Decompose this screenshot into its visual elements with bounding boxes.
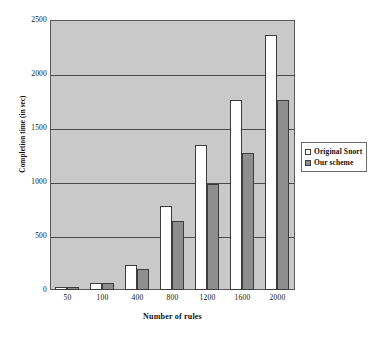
- bar: [207, 184, 219, 290]
- chart-legend: Original SnortOur scheme: [301, 142, 367, 172]
- y-axis-tick-label: 0: [43, 286, 47, 294]
- bar: [265, 35, 277, 290]
- y-axis-tick-label: 500: [35, 232, 47, 240]
- legend-item: Our scheme: [305, 157, 362, 168]
- legend-item-label: Our scheme: [314, 158, 353, 167]
- bars-layer: [50, 20, 295, 290]
- bar-group: [225, 20, 260, 290]
- bar: [90, 283, 102, 290]
- y-axis-tick-label: 1500: [31, 124, 47, 132]
- x-axis-tick-label: 1200: [191, 293, 225, 302]
- bar-group: [50, 20, 85, 290]
- y-axis-tick-label: 2500: [31, 16, 47, 24]
- bar: [242, 153, 254, 290]
- legend-item-label: Original Snort: [314, 147, 362, 156]
- y-axis-tick-label: 2000: [31, 70, 47, 78]
- bar-chart-figure: 05001000150020002500 Completion time (in…: [0, 0, 377, 337]
- x-axis-tick-label: 100: [86, 293, 120, 302]
- bar-group: [120, 20, 155, 290]
- bar: [67, 287, 79, 290]
- bar: [160, 206, 172, 290]
- x-axis-tick-labels: 50100400800120016002000: [50, 293, 295, 307]
- bar: [230, 100, 242, 290]
- x-axis-tick-label: 400: [121, 293, 155, 302]
- x-axis-tick-label: 2000: [261, 293, 295, 302]
- bar-group: [85, 20, 120, 290]
- y-axis-tick-label: 1000: [31, 178, 47, 186]
- bar-group: [190, 20, 225, 290]
- legend-swatch-icon: [305, 149, 311, 155]
- bar: [55, 287, 67, 290]
- y-axis-title: Completion time (in sec): [19, 59, 27, 209]
- bar-group: [155, 20, 190, 290]
- bar: [102, 283, 114, 290]
- legend-item: Original Snort: [305, 146, 362, 157]
- bar: [137, 269, 149, 290]
- x-axis-tick-label: 1600: [226, 293, 260, 302]
- x-axis-tick-label: 50: [51, 293, 85, 302]
- bar: [172, 221, 184, 290]
- bar: [125, 265, 137, 290]
- x-axis-tick-label: 800: [156, 293, 190, 302]
- bar-group: [260, 20, 295, 290]
- legend-swatch-icon: [305, 160, 311, 166]
- bar: [195, 145, 207, 290]
- x-axis-title: Number of rules: [50, 312, 295, 321]
- bar: [277, 100, 289, 290]
